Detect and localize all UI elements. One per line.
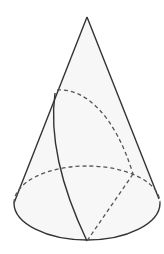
cone-figure bbox=[0, 0, 164, 254]
cone-diagram bbox=[0, 0, 164, 254]
cone-body bbox=[14, 17, 160, 240]
